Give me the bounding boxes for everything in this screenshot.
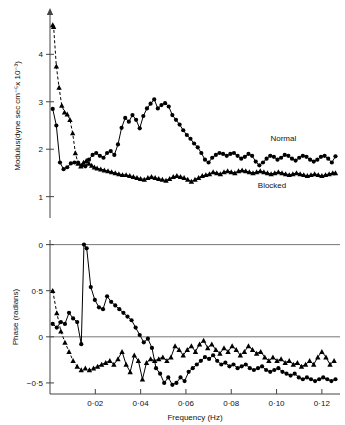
- data-point-circle: [97, 305, 101, 309]
- data-point-triangle: [128, 369, 133, 374]
- data-point-circle: [239, 157, 243, 161]
- data-point-circle: [199, 151, 203, 155]
- data-point-circle: [252, 368, 256, 372]
- data-point-circle: [333, 154, 337, 158]
- data-point-circle: [185, 133, 189, 137]
- data-point-circle: [211, 353, 215, 357]
- phase-panel: 00·50−0·50·020·040·060·080·100·12Frequen…: [11, 240, 340, 422]
- data-point-triangle: [172, 343, 177, 348]
- data-point-circle: [167, 104, 171, 108]
- data-point-circle: [130, 113, 134, 117]
- data-point-circle: [187, 370, 191, 374]
- data-point-circle: [117, 307, 121, 311]
- data-point-circle: [85, 246, 89, 250]
- data-point-circle: [243, 155, 247, 159]
- data-point-triangle: [278, 356, 283, 361]
- data-point-circle: [129, 318, 133, 322]
- data-point-triangle: [201, 338, 206, 343]
- data-point-triangle: [331, 358, 336, 363]
- data-point-circle: [170, 383, 174, 387]
- data-point-circle: [275, 158, 279, 162]
- data-point-triangle: [258, 349, 263, 354]
- y-tick-label-3: 4: [39, 50, 44, 59]
- data-point-triangle: [148, 356, 153, 361]
- data-point-circle: [219, 362, 223, 366]
- y-tick-label-0: 0: [39, 241, 44, 250]
- data-point-triangle: [74, 364, 79, 369]
- data-point-triangle: [307, 358, 312, 363]
- data-point-circle: [58, 160, 62, 164]
- data-point-circle: [231, 362, 235, 366]
- data-point-circle: [146, 337, 150, 341]
- data-point-circle: [260, 364, 264, 368]
- data-point-circle: [154, 366, 158, 370]
- data-point-circle: [210, 156, 214, 160]
- data-point-circle: [293, 372, 297, 376]
- y-axis-arrow-icon: [47, 8, 53, 15]
- data-point-circle: [69, 161, 73, 165]
- data-point-triangle: [119, 349, 124, 354]
- data-point-circle: [225, 154, 229, 158]
- data-point-circle: [203, 158, 207, 162]
- data-point-circle: [65, 165, 69, 169]
- data-point-circle: [206, 160, 210, 164]
- data-point-circle: [207, 357, 211, 361]
- data-point-circle: [63, 322, 67, 326]
- data-point-triangle: [66, 349, 71, 354]
- data-point-circle: [304, 155, 308, 159]
- data-point-circle: [163, 101, 167, 105]
- data-point-circle: [333, 377, 337, 381]
- data-point-circle: [196, 145, 200, 149]
- data-point-circle: [82, 243, 86, 247]
- data-point-circle: [214, 153, 218, 157]
- data-point-triangle: [132, 353, 137, 358]
- data-point-circle: [121, 311, 125, 315]
- data-point-circle: [170, 113, 174, 117]
- data-point-circle: [75, 320, 79, 324]
- data-point-circle: [289, 373, 293, 377]
- data-point-circle: [105, 294, 109, 298]
- data-point-circle: [127, 120, 131, 124]
- data-point-circle: [182, 379, 186, 383]
- data-point-circle: [174, 381, 178, 385]
- data-point-circle: [215, 359, 219, 363]
- data-point-circle: [305, 375, 309, 379]
- data-point-circle: [159, 103, 163, 107]
- x-tick-label-2: 0·06: [178, 399, 195, 408]
- data-point-circle: [276, 366, 280, 370]
- x-axis-title: Frequency (Hz): [167, 413, 222, 422]
- data-point-triangle: [295, 360, 300, 365]
- data-point-circle: [319, 155, 323, 159]
- data-point-circle: [67, 311, 71, 315]
- data-point-circle: [51, 107, 55, 111]
- data-point-circle: [256, 366, 260, 370]
- data-point-circle: [178, 375, 182, 379]
- data-point-circle: [329, 379, 333, 383]
- scientific-figure: 1234Modulus(dyne sec cm⁻⁵x 10⁻³)NormalBl…: [0, 0, 345, 425]
- data-point-circle: [54, 123, 58, 127]
- data-point-triangle: [67, 117, 72, 122]
- y-tick-label-1: 0·5: [31, 287, 43, 296]
- data-point-circle: [257, 163, 261, 167]
- data-point-circle: [55, 326, 59, 330]
- data-point-circle: [199, 359, 203, 363]
- data-point-circle: [272, 155, 276, 159]
- data-point-circle: [326, 157, 330, 161]
- x-tick-label-3: 0·08: [223, 399, 240, 408]
- data-point-circle: [227, 364, 231, 368]
- data-point-circle: [162, 381, 166, 385]
- data-point-triangle: [246, 343, 251, 348]
- data-point-circle: [94, 151, 98, 155]
- data-point-triangle: [107, 358, 112, 363]
- data-point-circle: [98, 154, 102, 158]
- data-point-circle: [250, 154, 254, 158]
- y-tick-label-3: −0·5: [27, 379, 44, 388]
- data-point-triangle: [209, 342, 214, 347]
- data-point-triangle: [270, 354, 275, 359]
- y-tick-label-2: 3: [39, 98, 44, 107]
- data-point-circle: [166, 375, 170, 379]
- data-point-circle: [181, 128, 185, 132]
- series-annotation-blocked: Blocked: [258, 181, 286, 190]
- data-point-circle: [309, 377, 313, 381]
- data-point-circle: [191, 366, 195, 370]
